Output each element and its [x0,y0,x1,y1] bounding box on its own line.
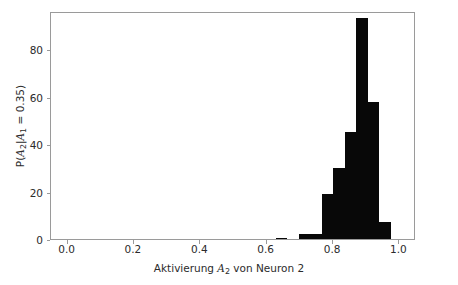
y-axis-title: P(A2|A1 = 0.35) [14,51,30,201]
x-tick-label: 0.6 [257,244,274,255]
histogram-bar [276,238,287,239]
histogram-bar [333,168,344,239]
histogram-bar [356,18,367,239]
y-tick-label: 0 [0,235,43,246]
plot-area [50,12,415,240]
x-axis-title-text: Aktivierung A2 von Neuron 2 [154,262,304,274]
y-axis-title-text: P(A2|A1 = 0.35) [14,51,30,201]
x-tick-label: 0.0 [58,244,75,255]
histogram-bars [51,13,414,239]
histogram-bar [367,102,378,239]
y-tick-mark [47,240,51,241]
x-tick-label: 1.0 [390,244,407,255]
x-tick-label: 0.8 [324,244,341,255]
histogram-bar [345,132,356,239]
x-tick-label: 0.4 [191,244,208,255]
histogram-bar [310,234,321,239]
histogram-bar [299,234,310,239]
x-tick-label: 0.2 [125,244,142,255]
histogram-figure: 020406080 P(A2|A1 = 0.35) 0.00.20.40.60.… [0,0,458,285]
histogram-bar [322,194,333,239]
histogram-bar [379,222,390,239]
x-axis-title: Aktivierung A2 von Neuron 2 [0,262,458,278]
